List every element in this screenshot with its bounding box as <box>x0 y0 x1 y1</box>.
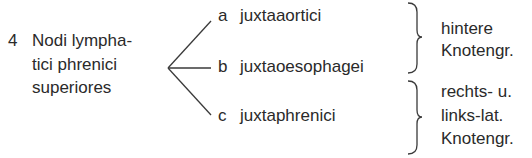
branch-letter-c: c <box>218 106 227 126</box>
group-1-line-2: Knotengr. <box>441 41 514 61</box>
group-2-line-3: Knotengr. <box>441 129 514 149</box>
group-2-line-2: links-lat. <box>441 106 503 126</box>
branch-label-b: juxtaoesophagei <box>240 57 364 77</box>
branch-label-a: juxtaaortici <box>240 6 321 26</box>
brace-group-2 <box>408 81 422 154</box>
group-2-line-1: rechts- u. <box>441 82 512 102</box>
root-label-line-1: Nodi lympha- <box>32 31 132 51</box>
branch-line-c <box>168 68 211 115</box>
branch-line-a <box>168 21 211 68</box>
brace-group-1 <box>408 3 422 73</box>
root-number: 4 <box>8 31 17 51</box>
root-label-line-2: tici phrenici <box>32 55 117 75</box>
group-1-line-1: hintere <box>441 19 493 39</box>
branch-letter-b: b <box>218 57 227 77</box>
branch-letter-a: a <box>218 6 227 26</box>
root-label-line-3: superiores <box>32 78 111 98</box>
branch-label-c: juxtaphrenici <box>240 106 335 126</box>
